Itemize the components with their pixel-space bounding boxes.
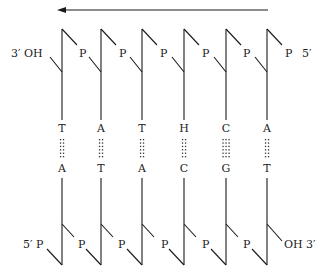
bottom-phosphate-4: P [161,238,169,251]
bottom-base-3: A [137,162,147,175]
bottom-base-4: C [180,162,188,175]
top-right-end-label: 5′ [302,47,312,60]
direction-arrow [57,7,268,13]
top-base-4: H [179,122,189,135]
bottom-nucleotide-1 [47,178,74,265]
top-nucleotide-1 [50,29,77,120]
top-nucleotide-6 [255,29,282,120]
top-base-1: T [58,122,66,135]
bottom-base-6: T [263,162,271,175]
bottom-nucleotide-3 [127,178,154,265]
bottom-phosphate-6: P [243,238,251,251]
top-phosphate-1: P [79,47,87,60]
hbond-pair-2 [99,139,103,157]
bottom-nucleotide-6 [252,178,282,265]
top-nucleotide-5 [214,29,241,120]
hbond-pair-6 [265,139,269,157]
top-nucleotide-2 [89,29,116,120]
bottom-right-end-label: OH 3′ [284,238,316,251]
bottom-base-2: T [97,162,105,175]
bottom-phosphate-5: P [202,238,210,251]
top-strand-backbone [50,29,282,120]
hbond-pair-1 [60,139,64,157]
top-base-5: C [222,122,230,135]
top-left-end-label: 3′ OH [11,47,43,60]
bottom-phosphate-3: P [118,238,126,251]
hbond-pair-3 [140,139,144,157]
top-phosphate-6: P [285,47,293,60]
hydrogen-bonds [60,139,269,157]
top-nucleotide-3 [130,29,157,120]
top-base-2: A [96,122,106,135]
top-nucleotide-4 [172,29,199,120]
bottom-phosphate-2: P [78,238,86,251]
bottom-bases: A T A C G T [57,162,271,175]
top-base-3: T [138,122,146,135]
hbond-pair-4 [182,139,186,157]
bottom-left-end-label: 5′ [23,238,33,251]
top-base-6: A [262,122,272,135]
dna-diagram: 3′ OH P P P P P P 5′ T A T H C A A T A C… [0,0,327,275]
bottom-strand-backbone [47,178,282,265]
bottom-base-5: G [222,162,231,175]
bottom-base-1: A [57,162,67,175]
top-bases: T A T H C A [58,122,272,135]
bottom-nucleotide-5 [211,178,238,265]
top-phosphate-4: P [202,47,210,60]
bottom-nucleotide-4 [169,178,196,265]
bottom-nucleotide-2 [86,178,113,265]
bottom-phosphate-1: P [36,238,44,251]
top-phosphate-5: P [243,47,251,60]
top-phosphate-3: P [160,47,168,60]
hbond-pair-5 [222,139,229,157]
top-phosphate-2: P [119,47,127,60]
